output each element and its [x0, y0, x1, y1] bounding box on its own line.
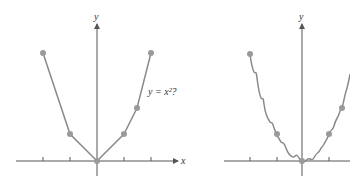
x-ticks — [250, 157, 329, 161]
sample-points — [247, 51, 345, 164]
x-axis-label: x — [180, 155, 186, 166]
wiggly-curve — [250, 54, 350, 162]
annotation: y = x²? — [147, 86, 177, 97]
y-axis-label: y — [93, 11, 99, 22]
right-panel: y — [224, 11, 350, 176]
y-axis-label: y — [298, 11, 304, 22]
figure: y x y = x²? y — [0, 0, 350, 188]
left-panel: y x y = x²? — [16, 11, 186, 176]
